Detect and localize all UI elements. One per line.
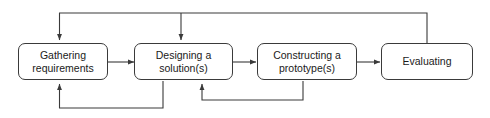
edge-evaluating-to-gathering-top [60, 13, 428, 43]
node-label-gathering-requirements: Gathering requirements [32, 49, 93, 75]
edge-constructing-to-designing-bottom [202, 81, 303, 100]
node-label-evaluating: Evaluating [402, 55, 451, 68]
node-label-constructing-a-prototype: Constructing a prototype(s) [273, 49, 341, 75]
node-constructing-a-prototype[interactable]: Constructing a prototype(s) [257, 43, 357, 80]
node-designing-a-solution[interactable]: Designing a solution(s) [134, 43, 233, 80]
node-label-designing-a-solution: Designing a solution(s) [156, 49, 211, 75]
flowchart-diagram: Gathering requirements Designing a solut… [0, 0, 490, 118]
node-gathering-requirements[interactable]: Gathering requirements [18, 43, 108, 80]
edge-designing-to-gathering-bottom [60, 81, 164, 108]
node-evaluating[interactable]: Evaluating [381, 43, 473, 80]
